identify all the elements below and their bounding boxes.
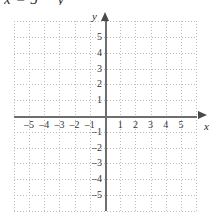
- y-tick-label: –3: [84, 158, 102, 168]
- y-tick-label: 3: [84, 64, 102, 74]
- y-tick-label: –1: [84, 127, 102, 137]
- y-axis-label: y: [92, 10, 97, 22]
- equation-caption: x = 5 − y: [4, 0, 65, 5]
- y-tick-label: –4: [84, 174, 102, 184]
- x-axis-label: x: [204, 120, 209, 132]
- y-tick-label: 1: [84, 95, 102, 105]
- y-axis-arrow-icon: [101, 12, 109, 21]
- y-axis: [105, 21, 107, 211]
- y-tick-label: –2: [84, 143, 102, 153]
- x-tick-label: 5: [172, 120, 190, 130]
- y-tick-label: –5: [84, 190, 102, 200]
- coordinate-plane: x y –5–4–3–2–112345 54321–1–2–3–4–5: [14, 21, 197, 211]
- y-tick-label: 2: [84, 79, 102, 89]
- y-tick-label: 4: [84, 48, 102, 58]
- y-tick-label: 5: [84, 32, 102, 42]
- x-axis-arrow-icon: [198, 111, 207, 119]
